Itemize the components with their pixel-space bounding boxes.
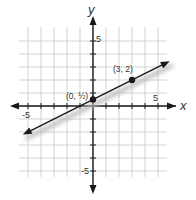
point-label-1: (3, 2) (113, 64, 133, 74)
y-axis-label: y (87, 2, 96, 17)
x-axis-label: x (179, 98, 187, 113)
plotted-line (21, 58, 172, 139)
coordinate-plane: x y -5 5 5 -5 (0, ½) (3, 2) (0, 0, 196, 200)
point-label-0: (0, ½) (66, 91, 88, 101)
y-tick-pos5: 5 (96, 34, 101, 44)
x-tick-neg5: -5 (22, 110, 30, 120)
y-tick-neg5: -5 (81, 166, 89, 176)
x-tick-pos5: 5 (153, 93, 158, 103)
